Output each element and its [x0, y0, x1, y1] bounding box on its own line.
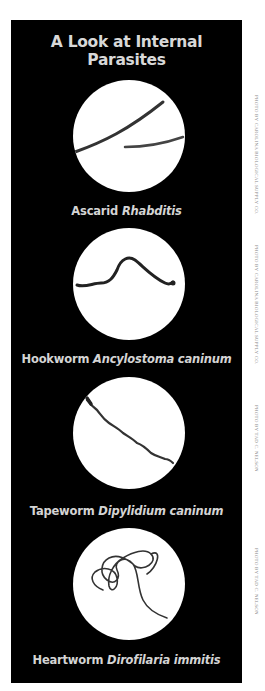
heartworm-image	[73, 528, 185, 640]
heartworm-common-name: Heartworm	[33, 653, 104, 667]
hookworm-common-name: Hookworm	[22, 352, 90, 366]
tapeworm-common-name: Tapeworm	[30, 504, 95, 518]
ascarid-photo-credit: Photo by Carolina Biological Supply Co.	[245, 95, 259, 214]
heartworm-caption: Heartworm Dirofilaria immitis	[11, 653, 242, 667]
tapeworm-worm-icon	[73, 377, 185, 489]
heartworm-scientific-name: Dirofilaria immitis	[107, 653, 220, 667]
ascarid-caption: Ascarid Rhabditis	[11, 204, 242, 218]
ascarid-worm-icon	[73, 80, 185, 192]
ascarid-image	[73, 80, 185, 192]
heartworm-worm-icon	[73, 528, 185, 640]
tapeworm-scientific-name: Dipylidium caninum	[98, 504, 223, 518]
tapeworm-photo-credit: Photo by Tad C. Nelson	[245, 405, 259, 472]
ascarid-common-name: Ascarid	[71, 204, 118, 218]
tapeworm-caption: Tapeworm Dipylidium caninum	[11, 504, 242, 518]
hookworm-photo-credit: Photo by Carolina Biological Supply Co.	[245, 245, 259, 364]
parasites-panel: A Look at Internal Parasites Ascarid Rha…	[11, 20, 242, 683]
tapeworm-image	[73, 377, 185, 489]
hookworm-image	[73, 228, 185, 340]
hookworm-scientific-name: Ancylostoma caninum	[93, 352, 232, 366]
ascarid-scientific-name: Rhabditis	[122, 204, 182, 218]
hookworm-caption: Hookworm Ancylostoma caninum	[11, 352, 242, 366]
hookworm-worm-icon	[73, 228, 185, 340]
heartworm-photo-credit: Photo by Tad C. Nelson	[245, 548, 259, 615]
page-title: A Look at Internal Parasites	[11, 33, 242, 69]
